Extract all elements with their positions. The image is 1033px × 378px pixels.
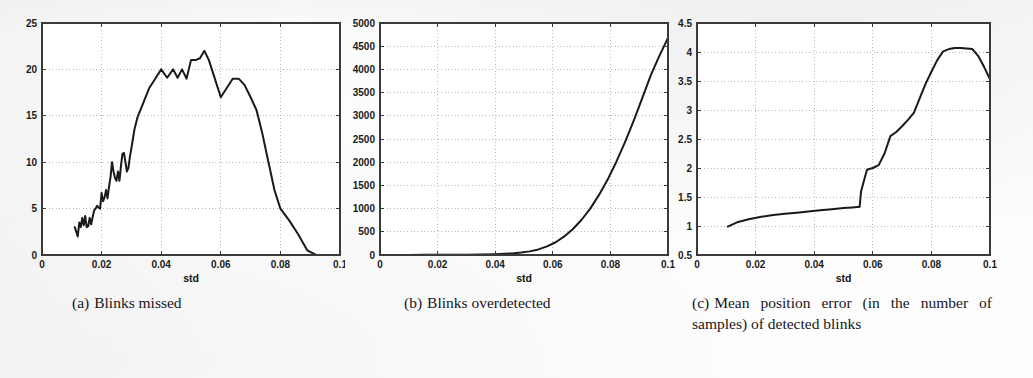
plot-mean-position-error: 00.020.040.060.080.10.511.522.533.544.5s… xyxy=(660,0,1020,290)
svg-text:0: 0 xyxy=(31,250,37,261)
svg-text:0.5: 0.5 xyxy=(678,250,692,261)
svg-text:3.5: 3.5 xyxy=(678,76,692,87)
svg-text:0.02: 0.02 xyxy=(746,259,766,270)
plot-blinks-overdetected: 00.020.040.060.080.105001000150020002500… xyxy=(336,0,681,290)
svg-text:0.08: 0.08 xyxy=(922,259,942,270)
plot-panel-mean-position-error: 00.020.040.060.080.10.511.522.533.544.5s… xyxy=(660,0,1020,290)
svg-text:std: std xyxy=(836,272,852,284)
svg-text:5000: 5000 xyxy=(353,18,376,29)
svg-text:0.06: 0.06 xyxy=(863,259,883,270)
svg-text:2000: 2000 xyxy=(353,157,376,168)
caption-b: (b)Blinks overdetected xyxy=(404,292,684,313)
svg-text:0.1: 0.1 xyxy=(983,259,997,270)
plot-blinks-missed: 00.020.040.060.080.10510152025std xyxy=(0,0,345,290)
svg-text:15: 15 xyxy=(26,110,38,121)
svg-text:10: 10 xyxy=(26,157,38,168)
svg-text:500: 500 xyxy=(358,226,375,237)
svg-text:1500: 1500 xyxy=(353,180,376,191)
svg-text:3500: 3500 xyxy=(353,87,376,98)
svg-text:0.02: 0.02 xyxy=(428,259,448,270)
svg-text:0.02: 0.02 xyxy=(92,259,112,270)
svg-text:std: std xyxy=(183,272,199,284)
svg-text:0: 0 xyxy=(369,250,375,261)
svg-text:4000: 4000 xyxy=(353,64,376,75)
svg-text:0.06: 0.06 xyxy=(543,259,563,270)
svg-text:2.5: 2.5 xyxy=(678,134,692,145)
svg-text:1.5: 1.5 xyxy=(678,192,692,203)
svg-text:0: 0 xyxy=(39,259,45,270)
svg-text:2500: 2500 xyxy=(353,134,376,145)
svg-text:4500: 4500 xyxy=(353,41,376,52)
svg-text:2: 2 xyxy=(686,163,692,174)
plot-panel-blinks-missed: 00.020.040.060.080.10510152025std xyxy=(0,0,345,290)
caption-a: (a)Blinks missed xyxy=(72,292,322,313)
svg-text:1: 1 xyxy=(686,221,692,232)
svg-text:std: std xyxy=(516,272,532,284)
svg-text:5: 5 xyxy=(31,203,37,214)
svg-text:25: 25 xyxy=(26,18,38,29)
caption-a-text: Blinks missed xyxy=(94,294,181,311)
svg-text:20: 20 xyxy=(26,64,38,75)
figure-row: 00.020.040.060.080.10510152025std 00.020… xyxy=(0,0,1033,290)
caption-c: (c)Mean position error (in the number of… xyxy=(692,292,992,335)
svg-text:0.08: 0.08 xyxy=(601,259,621,270)
svg-text:0.08: 0.08 xyxy=(271,259,291,270)
caption-c-text: Mean position error (in the number of sa… xyxy=(692,294,992,332)
svg-text:0.04: 0.04 xyxy=(804,259,824,270)
svg-text:3: 3 xyxy=(686,105,692,116)
caption-b-text: Blinks overdetected xyxy=(427,294,551,311)
figure-captions: (a)Blinks missed (b)Blinks overdetected … xyxy=(0,292,1033,378)
caption-a-label: (a) xyxy=(72,294,89,311)
svg-text:0: 0 xyxy=(377,259,383,270)
svg-text:3000: 3000 xyxy=(353,110,376,121)
caption-b-label: (b) xyxy=(404,294,422,311)
svg-text:0: 0 xyxy=(694,259,700,270)
svg-text:1000: 1000 xyxy=(353,203,376,214)
plot-panel-blinks-overdetected: 00.020.040.060.080.105001000150020002500… xyxy=(336,0,681,290)
svg-text:4.5: 4.5 xyxy=(678,18,692,29)
svg-text:0.04: 0.04 xyxy=(485,259,505,270)
figure-page: 00.020.040.060.080.10510152025std 00.020… xyxy=(0,0,1033,378)
svg-text:0.06: 0.06 xyxy=(211,259,231,270)
svg-text:0.04: 0.04 xyxy=(151,259,171,270)
svg-text:4: 4 xyxy=(686,47,692,58)
caption-c-label: (c) xyxy=(692,294,709,311)
